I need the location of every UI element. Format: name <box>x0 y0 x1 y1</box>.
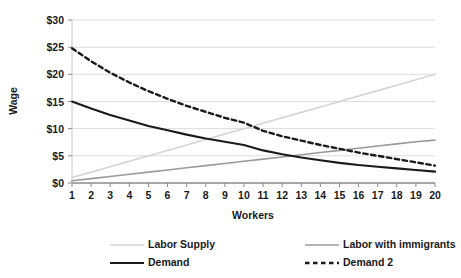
x-tick-label: 15 <box>334 189 346 201</box>
x-tick-label: 3 <box>107 189 113 201</box>
x-tick-label: 16 <box>353 189 365 201</box>
legend-label-demand-2: Demand 2 <box>343 256 393 268</box>
x-axis-title: Workers <box>232 209 274 221</box>
x-tick-label: 9 <box>222 189 228 201</box>
x-tick-marks <box>72 183 435 187</box>
y-tick-labels: $0$5$10$15$20$25$30 <box>46 14 64 189</box>
x-tick-label: 13 <box>295 189 307 201</box>
x-tick-labels: 1234567891011121314151617181920 <box>69 189 441 201</box>
x-tick-label: 11 <box>257 189 268 201</box>
x-tick-label: 2 <box>88 189 94 201</box>
y-tick-label: $30 <box>46 14 64 26</box>
x-tick-label: 8 <box>203 189 209 201</box>
x-tick-label: 20 <box>429 189 441 201</box>
x-tick-label: 14 <box>315 189 327 201</box>
chart-legend: Labor SupplyLabor with immigrantsDemandD… <box>110 238 456 268</box>
x-tick-label: 5 <box>145 189 151 201</box>
y-tick-label: $15 <box>46 96 64 108</box>
y-tick-label: $0 <box>52 177 64 189</box>
legend-label-labor-with-immigrants: Labor with immigrants <box>343 238 456 250</box>
y-tick-label: $20 <box>46 68 64 80</box>
legend-label-demand: Demand <box>148 256 189 268</box>
y-tick-label: $5 <box>52 150 64 162</box>
x-tick-label: 6 <box>165 189 171 201</box>
x-tick-label: 4 <box>126 189 132 201</box>
y-tick-label: $10 <box>46 123 64 135</box>
wage-workers-chart: $0$5$10$15$20$25$30 12345678910111213141… <box>0 0 461 278</box>
x-tick-label: 19 <box>410 189 422 201</box>
y-axis-title: Wage <box>7 87 19 115</box>
x-tick-label: 12 <box>276 189 288 201</box>
legend-label-labor-supply: Labor Supply <box>148 238 215 250</box>
x-tick-label: 7 <box>184 189 190 201</box>
x-tick-label: 10 <box>238 189 250 201</box>
x-tick-label: 17 <box>372 189 384 201</box>
y-tick-label: $25 <box>46 41 64 53</box>
chart-canvas: $0$5$10$15$20$25$30 12345678910111213141… <box>0 0 461 278</box>
x-tick-label: 18 <box>391 189 403 201</box>
x-tick-label: 1 <box>69 189 75 201</box>
